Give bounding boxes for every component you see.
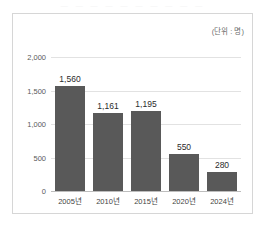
y-axis-tick-label: 1,500	[27, 86, 46, 95]
bar-group[interactable]: 1,5602005년	[51, 57, 89, 191]
bar-value-label: 1,195	[127, 99, 165, 109]
y-axis-tick-label: 500	[33, 153, 46, 162]
y-axis-tick-label: 2,000	[27, 53, 46, 62]
x-axis-tick-label: 2010년	[89, 195, 127, 206]
bar[interactable]	[131, 111, 161, 191]
gridline-0	[51, 191, 241, 192]
bar[interactable]	[55, 86, 85, 191]
bar-value-label: 1,161	[89, 101, 127, 111]
x-axis-tick-label: 2015년	[127, 195, 165, 206]
bar-value-label: 280	[203, 160, 241, 170]
bar[interactable]	[93, 113, 123, 191]
chart-frame: (단위 : 명) 05001,0001,5002,000 1,5602005년1…	[12, 13, 253, 214]
bar-group[interactable]: 2802024년	[203, 57, 241, 191]
unit-label: (단위 : 명)	[212, 25, 244, 36]
x-axis-tick-label: 2020년	[165, 195, 203, 206]
y-axis-tick-label: 0	[42, 187, 46, 196]
bar[interactable]	[169, 154, 199, 191]
bar-group[interactable]: 5502020년	[165, 57, 203, 191]
bar[interactable]	[207, 172, 237, 191]
bar-group[interactable]: 1,1612010년	[89, 57, 127, 191]
x-axis-tick-label: 2024년	[203, 195, 241, 206]
bar-group[interactable]: 1,1952015년	[127, 57, 165, 191]
y-axis-tick-label: 1,000	[27, 120, 46, 129]
bar-series: 1,5602005년1,1612010년1,1952015년5502020년28…	[51, 57, 241, 191]
bar-value-label: 1,560	[51, 74, 89, 84]
plot-area: 05001,0001,5002,000 1,5602005년1,1612010년…	[51, 57, 241, 191]
bar-value-label: 550	[165, 142, 203, 152]
cut-off-caption-strip: — — — — — — — — — —	[0, 0, 266, 11]
x-axis-tick-label: 2005년	[51, 195, 89, 206]
